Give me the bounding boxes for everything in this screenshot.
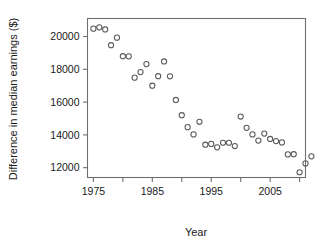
y-tick-label: 14000 [50,129,79,141]
y-tick-label: 18000 [50,63,79,75]
x-tick-label: 1975 [82,185,106,197]
y-tick-label: 16000 [50,96,79,108]
x-tick-label: 2005 [258,185,282,197]
y-axis-title: Difference in median earnings ($) [7,18,19,180]
plot-canvas: 1200014000160001800020000 19751985199520… [0,0,316,244]
scatter-plot-figure: 1200014000160001800020000 19751985199520… [0,0,316,244]
x-tick-label: 1995 [200,185,224,197]
x-axis-title: Year [185,226,208,238]
x-tick-label: 1985 [141,185,165,197]
y-tick-label: 12000 [50,161,79,173]
plot-background [0,0,316,244]
y-tick-label: 20000 [50,30,79,42]
